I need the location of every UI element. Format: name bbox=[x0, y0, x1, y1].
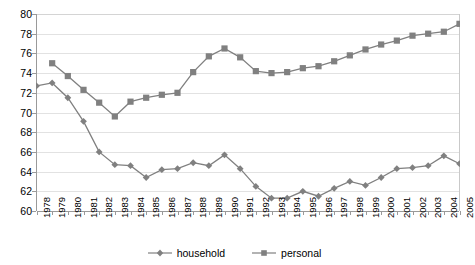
x-tick-mark-1990 bbox=[225, 211, 226, 215]
legend-marker-square-icon bbox=[251, 248, 277, 258]
data-point-personal bbox=[206, 53, 212, 59]
x-tick-mark-2004 bbox=[444, 211, 445, 215]
data-point-household bbox=[80, 118, 87, 125]
y-tick-label-70: 70 bbox=[0, 107, 32, 119]
x-tick-label-1978: 1978 bbox=[41, 197, 52, 218]
x-tick-mark-1982 bbox=[99, 211, 100, 215]
data-point-household bbox=[456, 160, 460, 167]
y-tick-label-80: 80 bbox=[0, 8, 32, 20]
x-tick-label-2001: 2001 bbox=[401, 197, 412, 218]
x-tick-label-1999: 1999 bbox=[370, 197, 381, 218]
x-tick-label-2003: 2003 bbox=[432, 197, 443, 218]
x-tick-mark-2001 bbox=[397, 211, 398, 215]
x-tick-mark-2003 bbox=[428, 211, 429, 215]
x-tick-label-1990: 1990 bbox=[229, 197, 240, 218]
data-point-household bbox=[36, 83, 40, 90]
y-tick-label-64: 64 bbox=[0, 166, 32, 178]
x-tick-label-2004: 2004 bbox=[448, 197, 459, 218]
data-point-personal bbox=[268, 70, 274, 76]
legend-marker-diamond-icon bbox=[147, 248, 173, 258]
x-tick-mark-1980 bbox=[68, 211, 69, 215]
data-point-personal bbox=[80, 87, 86, 93]
legend-label-personal: personal bbox=[281, 248, 321, 259]
data-series-layer bbox=[36, 14, 460, 211]
data-point-personal bbox=[441, 29, 447, 35]
data-point-personal bbox=[143, 95, 149, 101]
data-point-household bbox=[393, 165, 400, 172]
legend-label-household: household bbox=[177, 248, 225, 259]
x-tick-mark-1997 bbox=[334, 211, 335, 215]
data-point-personal bbox=[378, 41, 384, 47]
y-tick-label-78: 78 bbox=[0, 28, 32, 40]
x-tick-label-1987: 1987 bbox=[182, 197, 193, 218]
x-tick-mark-1989 bbox=[209, 211, 210, 215]
x-tick-mark-1998 bbox=[350, 211, 351, 215]
x-tick-mark-1996 bbox=[319, 211, 320, 215]
data-point-personal bbox=[362, 46, 368, 52]
x-tick-label-1989: 1989 bbox=[213, 197, 224, 218]
x-tick-label-1997: 1997 bbox=[338, 197, 349, 218]
x-tick-label-1993: 1993 bbox=[276, 197, 287, 218]
data-point-personal bbox=[96, 100, 102, 106]
data-point-household bbox=[331, 185, 338, 192]
data-point-personal bbox=[159, 92, 165, 98]
data-point-household bbox=[346, 178, 353, 185]
data-point-personal bbox=[221, 45, 227, 51]
x-tick-mark-1994 bbox=[287, 211, 288, 215]
x-tick-label-1981: 1981 bbox=[88, 197, 99, 218]
chart-legend: household personal bbox=[0, 243, 468, 263]
data-point-personal bbox=[284, 69, 290, 75]
data-point-personal bbox=[300, 65, 306, 71]
data-point-household bbox=[174, 165, 181, 172]
y-tick-label-74: 74 bbox=[0, 67, 32, 79]
data-point-personal bbox=[49, 60, 55, 66]
legend-item-household[interactable]: household bbox=[147, 248, 225, 259]
x-tick-mark-1979 bbox=[52, 211, 53, 215]
data-point-personal bbox=[394, 38, 400, 44]
y-tick-label-66: 66 bbox=[0, 146, 32, 158]
x-tick-mark-1978 bbox=[37, 211, 38, 215]
x-tick-label-2000: 2000 bbox=[385, 197, 396, 218]
data-point-personal bbox=[315, 63, 321, 69]
x-tick-mark-2005 bbox=[460, 211, 461, 215]
data-point-household bbox=[190, 159, 197, 166]
x-tick-mark-1986 bbox=[162, 211, 163, 215]
data-point-personal bbox=[253, 68, 259, 74]
x-tick-label-1979: 1979 bbox=[56, 197, 67, 218]
x-tick-mark-1987 bbox=[178, 211, 179, 215]
y-tick-label-62: 62 bbox=[0, 185, 32, 197]
data-point-personal bbox=[237, 54, 243, 60]
x-tick-label-2005: 2005 bbox=[464, 197, 475, 218]
x-tick-mark-1984 bbox=[131, 211, 132, 215]
data-point-household bbox=[158, 166, 165, 173]
x-tick-label-1991: 1991 bbox=[244, 197, 255, 218]
data-point-personal bbox=[127, 99, 133, 105]
x-tick-mark-1995 bbox=[303, 211, 304, 215]
x-tick-mark-1993 bbox=[272, 211, 273, 215]
x-tick-mark-1999 bbox=[366, 211, 367, 215]
y-tick-label-72: 72 bbox=[0, 87, 32, 99]
data-point-personal bbox=[347, 52, 353, 58]
x-tick-label-1984: 1984 bbox=[135, 197, 146, 218]
legend-item-personal[interactable]: personal bbox=[251, 248, 321, 259]
data-point-household bbox=[362, 182, 369, 189]
series-household bbox=[36, 80, 460, 202]
x-tick-mark-1981 bbox=[84, 211, 85, 215]
data-point-personal bbox=[331, 58, 337, 64]
x-tick-mark-2002 bbox=[413, 211, 414, 215]
data-point-personal bbox=[112, 113, 118, 119]
x-tick-label-2002: 2002 bbox=[417, 197, 428, 218]
data-point-household bbox=[440, 152, 447, 159]
x-tick-label-1996: 1996 bbox=[323, 197, 334, 218]
data-point-personal bbox=[190, 69, 196, 75]
data-point-personal bbox=[409, 33, 415, 39]
x-tick-label-1994: 1994 bbox=[291, 197, 302, 218]
x-tick-label-1992: 1992 bbox=[260, 197, 271, 218]
x-tick-label-1986: 1986 bbox=[166, 197, 177, 218]
x-tick-mark-1988 bbox=[193, 211, 194, 215]
data-point-personal bbox=[456, 21, 460, 27]
x-tick-mark-1991 bbox=[240, 211, 241, 215]
data-point-household bbox=[425, 162, 432, 169]
series-personal bbox=[49, 21, 460, 120]
x-tick-label-1983: 1983 bbox=[119, 197, 130, 218]
